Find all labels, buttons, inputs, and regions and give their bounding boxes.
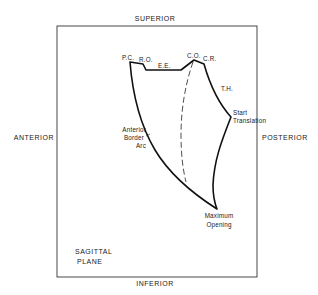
cr-label: C.R.: [203, 55, 216, 62]
posterior-label: POSTERIOR: [262, 134, 308, 141]
hinge-dashed-path: [181, 62, 193, 182]
ro-label: R.O.: [139, 56, 153, 63]
sagittal-border-movement-diagram: SUPERIOR INFERIOR ANTERIOR POSTERIOR SAG…: [0, 0, 318, 295]
th-label: T.H.: [221, 85, 233, 92]
border-envelope: [130, 60, 231, 209]
start-translation-label-2: Translation: [233, 117, 266, 124]
anterior-border-arc-label-3: Arc: [136, 142, 146, 149]
start-translation-label-1: Start: [233, 109, 247, 116]
anterior-label: ANTERIOR: [14, 134, 54, 141]
plane-label: PLANE: [77, 258, 102, 265]
co-label: C.O.: [187, 52, 201, 59]
superior-label: SUPERIOR: [135, 15, 176, 22]
anterior-border-arc-label-2: Border: [124, 134, 144, 141]
ee-label: E.E.: [158, 62, 171, 69]
maximum-opening-label-2: Opening: [206, 221, 232, 229]
maximum-opening-label-1: Maximum: [205, 212, 234, 219]
sagittal-label: SAGITTAL: [75, 248, 112, 255]
pc-label: P.C.: [122, 54, 134, 61]
anterior-border-arc-label-1: Anterior: [122, 126, 146, 133]
inferior-label: INFERIOR: [136, 280, 173, 287]
plane-frame: [57, 26, 257, 277]
